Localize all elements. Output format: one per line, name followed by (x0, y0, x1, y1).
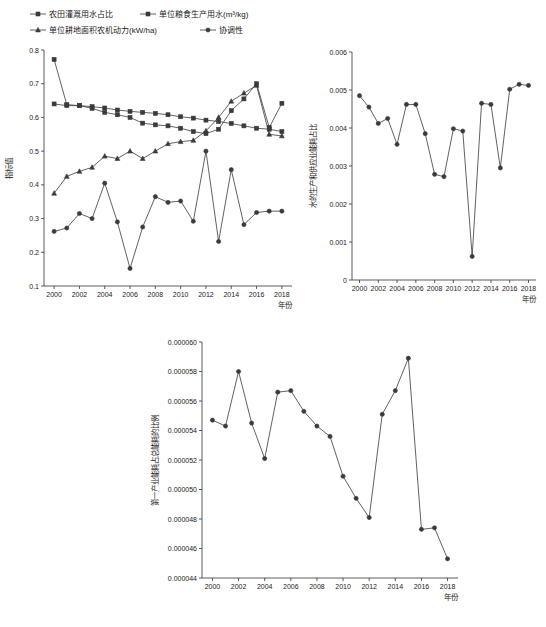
data-point (242, 223, 246, 227)
data-point (210, 418, 214, 422)
y-tick-label: 0 (343, 277, 347, 284)
y-tick-label: 0.000050 (168, 486, 197, 493)
panel-b-svg: 2000200220042006200820102012201420162018… (300, 10, 546, 320)
data-point (115, 113, 119, 117)
chart-panel-a: 2000200220042006200820102012201420162018… (0, 0, 300, 320)
data-point (217, 119, 221, 123)
data-point (153, 149, 158, 154)
x-tick-label: 2008 (148, 291, 164, 298)
data-point (267, 132, 272, 137)
data-point (404, 102, 408, 106)
data-point (229, 109, 233, 113)
data-point (242, 97, 246, 101)
data-point (140, 156, 145, 161)
x-tick-label: 2002 (231, 583, 247, 590)
data-point (166, 124, 170, 128)
x-tick-label: 2018 (521, 285, 537, 292)
data-point (328, 434, 332, 438)
chart-panel-c: 2000200220042006200820102012201420162018… (140, 320, 470, 620)
data-point (376, 121, 380, 125)
series-3 (52, 83, 285, 195)
data-point (204, 118, 208, 122)
data-point (461, 129, 465, 133)
axes: 2000200220042006200820102012201420162018… (168, 339, 458, 590)
data-point (263, 456, 267, 460)
y-tick-label: 0.000056 (168, 398, 197, 405)
x-tick-label: 2010 (335, 583, 351, 590)
x-axis-label: 年份 (522, 294, 537, 304)
legend-label: 单位耕地面积农机动力(kW/ha) (49, 25, 157, 35)
data-point (141, 110, 145, 114)
data-point (229, 99, 234, 104)
data-point (115, 220, 119, 224)
series-1 (210, 356, 449, 561)
data-point (276, 390, 280, 394)
y-tick-label: 0.000058 (168, 368, 197, 375)
data-point (153, 195, 157, 199)
data-point (393, 389, 397, 393)
x-tick-label: 2008 (427, 285, 443, 292)
data-point (166, 113, 170, 117)
data-point (217, 127, 221, 131)
x-tick-label: 2018 (274, 291, 290, 298)
data-point (128, 115, 132, 119)
y-tick-label: 0.000054 (168, 427, 197, 434)
data-point (526, 83, 530, 87)
y-axis-label: 水的生产和供应业能耗占比 (308, 123, 318, 208)
data-point (395, 142, 399, 146)
data-point (179, 115, 183, 119)
data-point (508, 87, 512, 91)
data-point (65, 226, 69, 230)
series-2 (52, 57, 284, 135)
x-tick-label: 2004 (257, 583, 273, 590)
data-point (267, 209, 271, 213)
data-point (191, 116, 195, 120)
y-tick-label: 0.000044 (168, 575, 197, 582)
data-point (166, 200, 170, 204)
y-tick-label: 0.000048 (168, 516, 197, 523)
legend: 农田灌溉用水占比单位粮食生产用水(m³/kg)单位耕地面积农机动力(kW/ha)… (30, 9, 249, 35)
data-point (315, 424, 319, 428)
series-4 (52, 149, 284, 271)
x-tick-label: 2002 (370, 285, 386, 292)
data-point (229, 168, 233, 172)
x-axis-label: 年份 (444, 592, 459, 602)
y-tick-label: 0.7 (29, 80, 39, 87)
y-tick-label: 0.4 (29, 181, 39, 188)
y-tick-label: 0.000046 (168, 545, 197, 552)
series-1 (52, 102, 284, 134)
data-point (289, 389, 293, 393)
data-point (52, 57, 56, 61)
y-axis-label: 指标值 (4, 157, 14, 179)
data-point (451, 127, 455, 131)
data-point (179, 126, 183, 130)
x-tick-label: 2008 (309, 583, 325, 590)
data-point (128, 149, 133, 154)
data-point (77, 104, 81, 108)
data-point (141, 225, 145, 229)
data-point (229, 122, 233, 126)
data-point (146, 12, 150, 16)
x-tick-label: 2006 (408, 285, 424, 292)
data-point (498, 166, 502, 170)
data-point (406, 356, 410, 360)
data-point (517, 82, 521, 86)
x-tick-label: 2002 (72, 291, 88, 298)
data-point (380, 412, 384, 416)
data-point (470, 254, 474, 258)
y-tick-label: 0.1 (29, 283, 39, 290)
data-point (77, 211, 81, 215)
x-tick-label: 2012 (361, 583, 377, 590)
data-point (432, 526, 436, 530)
x-tick-label: 2014 (483, 285, 499, 292)
data-point (36, 12, 40, 16)
data-point (179, 199, 183, 203)
data-point (354, 496, 358, 500)
data-point (153, 123, 157, 127)
data-point (414, 102, 418, 106)
x-tick-label: 2004 (97, 291, 113, 298)
data-point (52, 229, 56, 233)
data-point (255, 126, 259, 130)
data-point (419, 527, 423, 531)
legend-label: 农田灌溉用水占比 (49, 9, 113, 19)
